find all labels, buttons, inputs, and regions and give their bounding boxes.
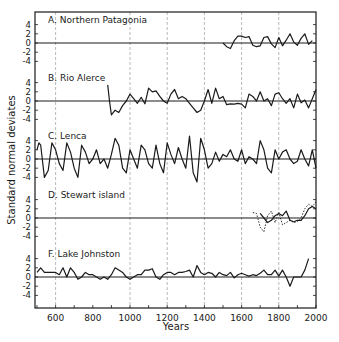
x-tick-label: 1800	[267, 313, 290, 323]
panel: 420-2-4A. Northern Patagonia	[23, 15, 316, 66]
panels: 420-2-4A. Northern Patagonia420-2-4B. Ri…	[23, 15, 316, 300]
x-axis-label: Years	[162, 321, 189, 332]
y-tick-label: -4	[23, 231, 31, 241]
chart-figure: 420-2-4A. Northern Patagonia420-2-4B. Ri…	[0, 0, 339, 342]
panel-label: D. Stewart island	[48, 190, 125, 200]
panel: 420-2-4F. Lake Johnston	[23, 249, 316, 300]
panel-label: F. Lake Johnston	[48, 249, 120, 259]
x-tick-label: 2000	[305, 313, 328, 323]
x-tick-label: 1000	[119, 313, 142, 323]
series-line	[108, 85, 316, 115]
panel: 420-2-4B. Rio Alerce	[23, 73, 316, 124]
panel-label: B. Rio Alerce	[48, 73, 106, 83]
x-tick-label: 1400	[193, 313, 216, 323]
panel: 420-2-4D. Stewart island	[23, 190, 316, 241]
y-tick-label: -4	[23, 290, 31, 300]
x-tick-label: 600	[47, 313, 64, 323]
panel: 420-2-4C. Lenca	[23, 131, 316, 182]
panel-label: C. Lenca	[48, 131, 87, 141]
series-line	[37, 259, 309, 287]
x-tick-label: 800	[84, 313, 101, 323]
y-tick-label: -4	[23, 56, 31, 66]
panel-label: A. Northern Patagonia	[48, 15, 147, 25]
y-tick-label: -4	[23, 114, 31, 124]
y-tick-label: -4	[23, 172, 31, 182]
x-tick-label: 1600	[230, 313, 253, 323]
vertical-gridlines	[56, 12, 279, 308]
y-axis-label: Standard normal deviates	[6, 95, 17, 225]
series-line	[223, 34, 312, 49]
